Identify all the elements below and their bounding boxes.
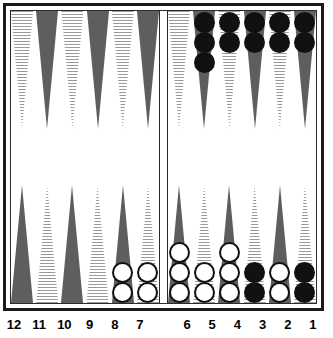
checker-stack[interactable] <box>168 242 190 302</box>
board-outer-frame <box>3 3 324 311</box>
checker-black[interactable] <box>269 32 290 53</box>
checker-white[interactable] <box>169 282 190 303</box>
checker-black[interactable] <box>194 32 215 53</box>
point-top_right-3[interactable] <box>244 11 266 157</box>
quadrant-bottom-left <box>11 157 159 303</box>
point-top_left-1[interactable] <box>36 11 58 157</box>
point-triangle-dark <box>87 11 109 129</box>
point-label-6: 6 <box>176 314 198 338</box>
checker-white[interactable] <box>269 282 290 303</box>
point-label-5: 5 <box>201 314 223 338</box>
point-2[interactable] <box>269 157 291 303</box>
point-triangle-light <box>87 185 109 303</box>
point-number-labels: 121110987 654321 <box>3 314 324 338</box>
point-4[interactable] <box>218 157 240 303</box>
point-triangle-light <box>112 11 134 129</box>
point-top_left-2[interactable] <box>61 11 83 157</box>
label-gap <box>151 314 176 338</box>
point-labels-right: 654321 <box>176 314 324 338</box>
checker-black[interactable] <box>219 32 240 53</box>
checker-white[interactable] <box>219 242 240 263</box>
checker-stack[interactable] <box>193 262 215 302</box>
point-top_left-3[interactable] <box>87 11 109 157</box>
point-6[interactable] <box>168 157 190 303</box>
checker-stack[interactable] <box>244 262 266 302</box>
checker-stack[interactable] <box>112 262 134 302</box>
checker-white[interactable] <box>112 282 133 303</box>
point-label-10: 10 <box>53 314 75 338</box>
checker-stack[interactable] <box>269 12 291 52</box>
checker-black[interactable] <box>219 12 240 33</box>
checker-black[interactable] <box>294 32 315 53</box>
checker-stack[interactable] <box>294 262 316 302</box>
point-label-4: 4 <box>226 314 248 338</box>
checker-black[interactable] <box>244 12 265 33</box>
point-triangle-light <box>36 185 58 303</box>
checker-stack[interactable] <box>244 12 266 52</box>
checker-black[interactable] <box>244 282 265 303</box>
checker-white[interactable] <box>194 262 215 283</box>
point-9[interactable] <box>87 157 109 303</box>
point-triangle-dark <box>137 11 159 129</box>
point-triangle-dark <box>11 185 33 303</box>
checker-white[interactable] <box>194 282 215 303</box>
quadrant-top-left <box>11 11 159 157</box>
checker-black[interactable] <box>244 32 265 53</box>
point-10[interactable] <box>61 157 83 303</box>
board-half-right <box>168 11 316 303</box>
backgammon-board: 121110987 654321 <box>0 0 333 338</box>
point-top_right-4[interactable] <box>269 11 291 157</box>
checker-white[interactable] <box>219 282 240 303</box>
point-11[interactable] <box>36 157 58 303</box>
board-inner-frame <box>10 10 317 304</box>
point-label-3: 3 <box>252 314 274 338</box>
point-top_left-0[interactable] <box>11 11 33 157</box>
checker-black[interactable] <box>294 282 315 303</box>
checker-white[interactable] <box>169 242 190 263</box>
quadrant-bottom-right <box>168 157 316 303</box>
board-half-left <box>11 11 159 303</box>
checker-white[interactable] <box>112 262 133 283</box>
checker-stack[interactable] <box>218 12 240 52</box>
checker-white[interactable] <box>137 262 158 283</box>
checker-white[interactable] <box>269 262 290 283</box>
checker-black[interactable] <box>294 12 315 33</box>
checker-stack[interactable] <box>294 12 316 52</box>
point-label-8: 8 <box>104 314 126 338</box>
checker-stack[interactable] <box>218 242 240 302</box>
point-label-1: 1 <box>302 314 324 338</box>
checker-white[interactable] <box>169 262 190 283</box>
point-7[interactable] <box>137 157 159 303</box>
point-label-7: 7 <box>129 314 151 338</box>
point-label-9: 9 <box>79 314 101 338</box>
checker-black[interactable] <box>194 52 215 73</box>
checker-black[interactable] <box>269 12 290 33</box>
quadrant-top-right <box>168 11 316 157</box>
checker-stack[interactable] <box>269 262 291 302</box>
point-label-2: 2 <box>277 314 299 338</box>
checker-white[interactable] <box>137 282 158 303</box>
point-5[interactable] <box>193 157 215 303</box>
checker-black[interactable] <box>294 262 315 283</box>
point-label-11: 11 <box>28 314 50 338</box>
point-top_left-5[interactable] <box>137 11 159 157</box>
point-top_right-2[interactable] <box>218 11 240 157</box>
center-bar <box>159 11 168 303</box>
point-8[interactable] <box>112 157 134 303</box>
checker-black[interactable] <box>244 262 265 283</box>
checker-black[interactable] <box>194 12 215 33</box>
point-labels-left: 121110987 <box>3 314 151 338</box>
point-triangle-light <box>168 11 190 129</box>
point-top_left-4[interactable] <box>112 11 134 157</box>
checker-stack[interactable] <box>137 262 159 302</box>
point-3[interactable] <box>244 157 266 303</box>
point-top_right-1[interactable] <box>193 11 215 157</box>
checker-white[interactable] <box>219 262 240 283</box>
point-top_right-0[interactable] <box>168 11 190 157</box>
checker-stack[interactable] <box>193 12 215 72</box>
point-triangle-light <box>61 11 83 129</box>
point-top_right-5[interactable] <box>294 11 316 157</box>
point-12[interactable] <box>11 157 33 303</box>
point-label-12: 12 <box>3 314 25 338</box>
point-1[interactable] <box>294 157 316 303</box>
